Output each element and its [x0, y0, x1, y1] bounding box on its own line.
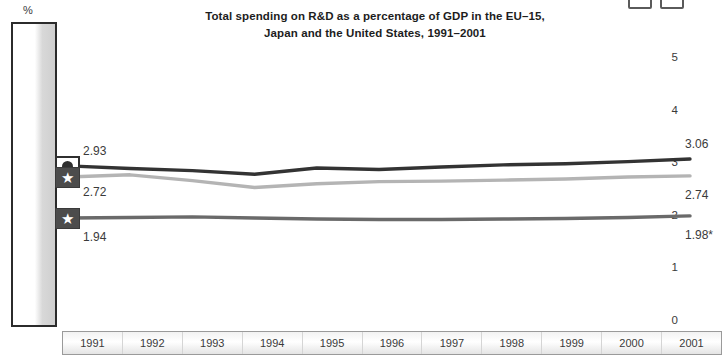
x-axis-year-1991: 1991 — [63, 332, 123, 354]
y-axis-tick-4: 4 — [648, 104, 678, 116]
star-glyph: ★ — [61, 170, 74, 185]
end-value-japan: 3.06 — [685, 137, 708, 151]
start-value-japan: 2.93 — [83, 144, 106, 158]
y-axis-unit-label: % — [23, 4, 33, 16]
x-axis-year-1993: 1993 — [183, 332, 243, 354]
y-axis-panel — [11, 22, 57, 327]
end-value-united-states: 2.74 — [685, 188, 708, 202]
x-axis-year-1999: 1999 — [542, 332, 602, 354]
star-marker-icon: ★ — [55, 167, 80, 188]
y-axis-tick-5: 5 — [648, 51, 678, 63]
series-line-eu-15 — [68, 216, 690, 220]
star-marker-icon: ★ — [55, 208, 80, 229]
window-controls — [628, 0, 692, 9]
series-line-united-states — [68, 175, 690, 188]
x-axis-year-2000: 2000 — [602, 332, 662, 354]
x-axis-year-1998: 1998 — [482, 332, 542, 354]
x-axis-year-1997: 1997 — [422, 332, 482, 354]
restore-button[interactable] — [628, 0, 652, 9]
end-value-eu-15: 1.98* — [685, 228, 713, 242]
y-axis-tick-3: 3 — [648, 156, 678, 168]
x-axis-year-1995: 1995 — [303, 332, 363, 354]
x-axis-year-2001: 2001 — [662, 332, 721, 354]
y-axis-tick-2: 2 — [648, 209, 678, 221]
x-axis-year-1996: 1996 — [363, 332, 423, 354]
x-axis-year-strip: 1991199219931994199519961997199819992000… — [62, 331, 722, 355]
series-line-japan — [68, 159, 690, 174]
chart-title-line1: Total spending on R&D as a percentage of… — [140, 8, 610, 25]
x-axis-year-1992: 1992 — [123, 332, 183, 354]
start-value-eu-15: 1.94 — [83, 230, 106, 244]
y-axis-tick-1: 1 — [648, 261, 678, 273]
star-glyph: ★ — [61, 211, 74, 226]
start-value-united-states: 2.72 — [83, 185, 106, 199]
close-button[interactable] — [660, 0, 684, 9]
x-axis-year-1994: 1994 — [243, 332, 303, 354]
plot-area — [0, 0, 728, 360]
y-axis-tick-0: 0 — [648, 314, 678, 326]
chart-title-line2: Japan and the United States, 1991–2001 — [140, 25, 610, 42]
chart-title: Total spending on R&D as a percentage of… — [140, 8, 610, 42]
